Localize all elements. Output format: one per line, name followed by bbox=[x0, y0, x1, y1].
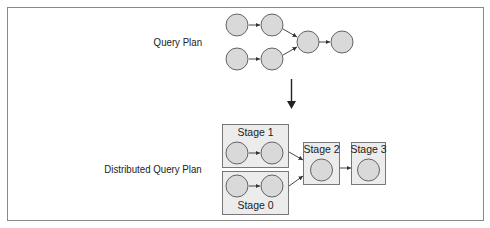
query-plan-graph bbox=[226, 14, 353, 70]
query-node bbox=[226, 14, 248, 36]
query-node bbox=[297, 31, 319, 53]
stage-2-label: Stage 2 bbox=[303, 143, 339, 155]
stage-3-label: Stage 3 bbox=[350, 143, 386, 155]
query-node bbox=[226, 48, 248, 70]
stage-1-label: Stage 1 bbox=[237, 126, 273, 138]
query-node bbox=[261, 48, 283, 70]
diagram-canvas: Stage 1 Stage 0 Stage 2 Stage 3 bbox=[0, 0, 490, 228]
stage-0-label: Stage 0 bbox=[237, 199, 273, 211]
query-node bbox=[331, 31, 353, 53]
transform-arrow-icon bbox=[287, 79, 296, 109]
query-node bbox=[261, 14, 283, 36]
